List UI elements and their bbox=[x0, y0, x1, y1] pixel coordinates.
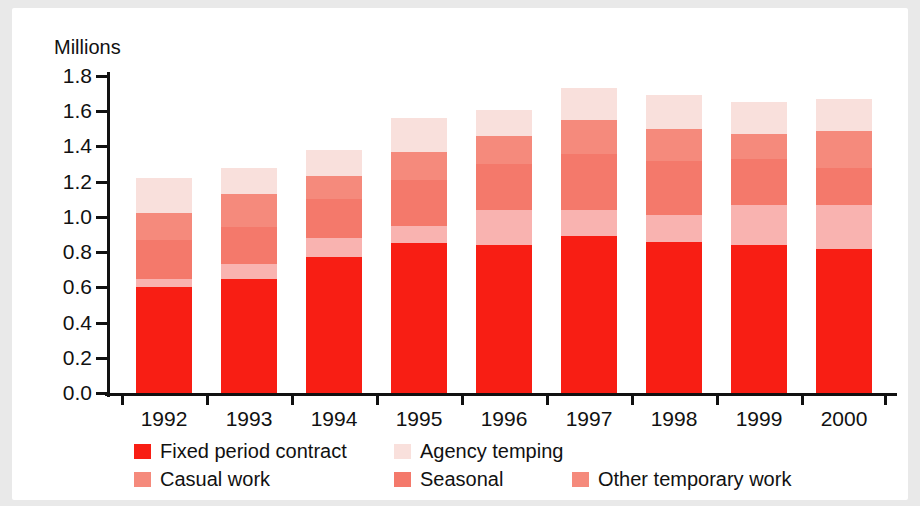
x-tick-label-1999: 1999 bbox=[714, 407, 804, 431]
x-axis-line bbox=[105, 393, 897, 396]
bar-1997 bbox=[561, 88, 617, 393]
bar-segment bbox=[221, 194, 277, 227]
bar-segment bbox=[646, 215, 702, 241]
legend-item-4[interactable]: Other temporary work bbox=[572, 468, 791, 491]
bar-segment bbox=[561, 88, 617, 120]
bar-segment bbox=[391, 226, 447, 244]
x-tick-label-2000: 2000 bbox=[799, 407, 889, 431]
x-tick bbox=[884, 394, 887, 405]
y-tick bbox=[96, 181, 107, 184]
x-tick bbox=[206, 394, 209, 405]
bar-segment bbox=[391, 180, 447, 226]
x-tick-label-1993: 1993 bbox=[204, 407, 294, 431]
x-tick-label-1997: 1997 bbox=[544, 407, 634, 431]
legend-label: Casual work bbox=[160, 468, 270, 491]
bar-segment bbox=[816, 205, 872, 249]
bar-segment bbox=[476, 245, 532, 393]
bar-segment bbox=[136, 213, 192, 239]
legend-item-3[interactable]: Seasonal bbox=[394, 468, 503, 491]
bar-segment bbox=[816, 131, 872, 168]
legend-label: Other temporary work bbox=[598, 468, 791, 491]
bar-segment bbox=[561, 120, 617, 153]
bar-2000 bbox=[816, 99, 872, 393]
bar-segment bbox=[221, 279, 277, 393]
bar-segment bbox=[476, 136, 532, 164]
legend-swatch-icon bbox=[394, 472, 411, 487]
bar-segment bbox=[391, 243, 447, 393]
bar-segment bbox=[816, 168, 872, 205]
bar-segment bbox=[306, 199, 362, 238]
x-tick bbox=[121, 394, 124, 405]
bar-segment bbox=[731, 205, 787, 246]
x-tick bbox=[461, 394, 464, 405]
bar-segment bbox=[731, 245, 787, 393]
bar-1998 bbox=[646, 95, 702, 393]
bar-segment bbox=[476, 210, 532, 245]
bar-segment bbox=[646, 129, 702, 161]
bar-1994 bbox=[306, 150, 362, 393]
legend-swatch-icon bbox=[572, 472, 589, 487]
bar-segment bbox=[306, 257, 362, 393]
bar-segment bbox=[476, 164, 532, 210]
x-tick bbox=[291, 394, 294, 405]
bar-segment bbox=[306, 176, 362, 199]
bar-segment bbox=[646, 161, 702, 216]
legend-item-0[interactable]: Fixed period contract bbox=[134, 440, 347, 463]
x-tick-label-1994: 1994 bbox=[289, 407, 379, 431]
y-tick-label: 0.2 bbox=[42, 347, 92, 368]
y-tick bbox=[96, 392, 107, 395]
x-tick-label-1992: 1992 bbox=[119, 407, 209, 431]
y-tick bbox=[96, 322, 107, 325]
bar-segment bbox=[476, 110, 532, 136]
bar-segment bbox=[561, 154, 617, 210]
chart-card: Millions 1.81.61.41.21.00.80.60.40.20.0 … bbox=[12, 8, 908, 500]
bar-segment bbox=[646, 95, 702, 128]
page-root: Millions 1.81.61.41.21.00.80.60.40.20.0 … bbox=[0, 0, 920, 506]
bar-segment bbox=[731, 159, 787, 205]
x-tick-label-1996: 1996 bbox=[459, 407, 549, 431]
y-tick bbox=[96, 110, 107, 113]
bar-segment bbox=[816, 99, 872, 131]
bar-segment bbox=[306, 238, 362, 257]
y-tick bbox=[96, 216, 107, 219]
y-tick-label: 0.6 bbox=[42, 276, 92, 297]
y-axis-title: Millions bbox=[54, 36, 121, 59]
x-tick bbox=[716, 394, 719, 405]
y-tick-label: 1.6 bbox=[42, 100, 92, 121]
chart-legend: Fixed period contractAgency tempingCasua… bbox=[12, 438, 908, 494]
y-tick bbox=[96, 251, 107, 254]
bar-segment bbox=[221, 168, 277, 194]
bar-segment bbox=[136, 178, 192, 213]
bar-segment bbox=[136, 240, 192, 279]
x-tick-label-1998: 1998 bbox=[629, 407, 719, 431]
bar-segment bbox=[646, 242, 702, 393]
legend-swatch-icon bbox=[394, 444, 411, 459]
bar-1995 bbox=[391, 118, 447, 393]
y-tick-label: 0.0 bbox=[42, 382, 92, 403]
x-tick bbox=[801, 394, 804, 405]
bar-segment bbox=[561, 210, 617, 236]
x-tick-label-1995: 1995 bbox=[374, 407, 464, 431]
legend-item-2[interactable]: Casual work bbox=[134, 468, 270, 491]
legend-swatch-icon bbox=[134, 472, 151, 487]
bar-1999 bbox=[731, 102, 787, 393]
bar-segment bbox=[731, 134, 787, 159]
bar-segment bbox=[391, 118, 447, 151]
bar-segment bbox=[306, 150, 362, 176]
y-tick bbox=[96, 357, 107, 360]
y-tick bbox=[96, 145, 107, 148]
bar-1996 bbox=[476, 110, 532, 394]
y-tick-label: 1.2 bbox=[42, 171, 92, 192]
bar-segment bbox=[561, 236, 617, 393]
legend-label: Fixed period contract bbox=[160, 440, 347, 463]
bar-segment bbox=[136, 279, 192, 288]
y-tick-label: 1.4 bbox=[42, 135, 92, 156]
y-tick bbox=[96, 75, 107, 78]
legend-label: Seasonal bbox=[420, 468, 503, 491]
bar-segment bbox=[816, 249, 872, 393]
legend-item-1[interactable]: Agency temping bbox=[394, 440, 563, 463]
y-tick-label: 0.8 bbox=[42, 241, 92, 262]
x-tick bbox=[376, 394, 379, 405]
bar-1992 bbox=[136, 178, 192, 393]
bar-segment bbox=[221, 227, 277, 264]
